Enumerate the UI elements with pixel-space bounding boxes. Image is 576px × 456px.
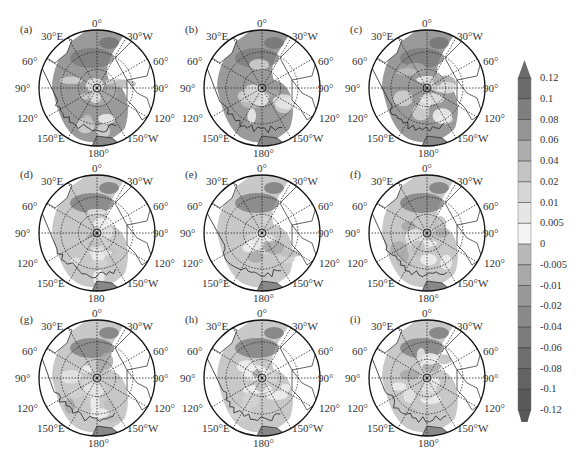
colorbar-tick-label: -0.01 <box>540 281 562 291</box>
colorbar-tick-label: 0.005 <box>540 218 564 228</box>
colorbar-tick-label: -0.1 <box>540 384 557 394</box>
longitude-label-lower-left: 150°E <box>37 423 65 434</box>
longitude-label-left-lower: 120° <box>17 113 38 124</box>
longitude-label-right-upper: 60° <box>153 56 168 67</box>
longitude-label-upper-left: 30°E <box>206 31 228 42</box>
longitude-label-top: 0° <box>92 18 102 29</box>
map-panel-f: (f)0°30°E30°W60°60°90°90°120°120°150°E15… <box>342 158 512 308</box>
longitude-label-lower-right: 150°W <box>292 133 323 144</box>
longitude-label-left-upper: 60° <box>352 346 367 357</box>
longitude-label-left-lower: 120° <box>182 258 203 269</box>
longitude-label-lower-right: 150°W <box>457 278 488 289</box>
longitude-label-left-mid: 90° <box>15 228 30 239</box>
longitude-label-upper-right: 30°W <box>457 321 483 332</box>
colorbar-tick-label: 0 <box>540 239 545 249</box>
longitude-label-top: 0° <box>92 163 102 174</box>
longitude-label-right-mid: 90° <box>483 228 498 239</box>
longitude-label-right-mid: 90° <box>153 228 168 239</box>
longitude-label-left-mid: 90° <box>345 373 360 384</box>
longitude-label-left-lower: 120° <box>182 403 203 414</box>
longitude-label-left-lower: 120° <box>17 403 38 414</box>
longitude-label-right-lower: 120° <box>319 258 340 269</box>
longitude-label-left-upper: 60° <box>187 56 202 67</box>
longitude-label-right-upper: 60° <box>153 201 168 212</box>
colorbar-tick-label: 0.08 <box>540 115 558 125</box>
longitude-label-right-mid: 90° <box>318 83 333 94</box>
map-panel-e: (e)0°30°E30°W60°60°90°90°120°120°150°E15… <box>177 158 347 308</box>
longitude-label-upper-right: 30°W <box>457 31 483 42</box>
longitude-label-right-upper: 60° <box>153 346 168 357</box>
colorbar-tick-label: 0.12 <box>540 73 558 83</box>
colorbar-tick-label: -0.04 <box>540 322 562 332</box>
longitude-label-left-lower: 120° <box>347 113 368 124</box>
colorbar-tick-label: -0.08 <box>540 364 562 374</box>
longitude-label-top: 0° <box>257 18 267 29</box>
longitude-label-lower-left: 150°E <box>202 278 230 289</box>
longitude-label-right-lower: 120° <box>154 113 175 124</box>
colorbar-tick-label: 0.06 <box>540 135 558 145</box>
colorbar-tick-label: 0.01 <box>540 198 558 208</box>
longitude-label-upper-left: 30°E <box>206 176 228 187</box>
longitude-label-right-upper: 60° <box>483 201 498 212</box>
longitude-label-left-mid: 90° <box>180 228 195 239</box>
map-panel-a: (a)0°30°E30°W60°60°90°90°120°120°150°E15… <box>12 13 182 163</box>
longitude-label-lower-left: 150°E <box>37 133 65 144</box>
longitude-label-right-mid: 90° <box>153 373 168 384</box>
longitude-label-lower-right: 150°W <box>457 133 488 144</box>
longitude-label-upper-right: 30°W <box>127 321 153 332</box>
colorbar-tick-label: 0.04 <box>540 156 558 166</box>
panel-label: (i) <box>350 314 360 325</box>
longitude-label-lower-right: 150°W <box>127 278 158 289</box>
colorbar-tick-label: -0.02 <box>540 301 562 311</box>
longitude-label-left-upper: 60° <box>22 201 37 212</box>
longitude-label-left-lower: 120° <box>17 258 38 269</box>
longitude-label-right-upper: 60° <box>483 346 498 357</box>
longitude-label-upper-left: 30°E <box>371 321 393 332</box>
map-panel-i: (i)0°30°E30°W60°60°90°90°120°120°150°E15… <box>342 303 512 453</box>
longitude-label-top: 0° <box>422 308 432 319</box>
longitude-label-right-upper: 60° <box>318 56 333 67</box>
panel-label: (h) <box>185 314 198 325</box>
longitude-label-top: 0° <box>92 308 102 319</box>
map-panel-b: (b)0°30°E30°W60°60°90°90°120°120°150°E15… <box>177 13 347 163</box>
longitude-label-upper-right: 30°W <box>292 176 318 187</box>
longitude-label-bottom: 180° <box>418 438 439 449</box>
longitude-label-left-upper: 60° <box>352 201 367 212</box>
longitude-label-bottom: 180° <box>253 438 274 449</box>
panel-label: (d) <box>20 169 33 180</box>
longitude-label-left-mid: 90° <box>15 373 30 384</box>
longitude-label-right-mid: 90° <box>483 373 498 384</box>
longitude-label-right-mid: 90° <box>483 83 498 94</box>
longitude-label-top: 0° <box>422 163 432 174</box>
colorbar-tick-label: 0.02 <box>540 177 558 187</box>
map-panel-c: (c)0°30°E30°W60°60°90°90°120°120°150°E15… <box>342 13 512 163</box>
map-panel-d: (d)0°30°E30°W60°60°90°90°120°120°150°E15… <box>12 158 182 308</box>
longitude-label-left-upper: 60° <box>22 56 37 67</box>
longitude-label-left-upper: 60° <box>187 346 202 357</box>
longitude-label-left-mid: 90° <box>15 83 30 94</box>
longitude-label-top: 0° <box>422 18 432 29</box>
longitude-label-right-lower: 120° <box>154 258 175 269</box>
longitude-label-left-mid: 90° <box>345 228 360 239</box>
colorbar-tick-label: -0.06 <box>540 343 562 353</box>
longitude-label-upper-left: 30°E <box>371 176 393 187</box>
longitude-label-right-upper: 60° <box>318 346 333 357</box>
colorbar-tick-label: -0.005 <box>540 260 567 270</box>
longitude-label-left-upper: 60° <box>352 56 367 67</box>
longitude-label-right-mid: 90° <box>318 373 333 384</box>
longitude-label-upper-left: 30°E <box>371 31 393 42</box>
panel-label: (a) <box>20 24 32 35</box>
longitude-label-top: 0° <box>257 163 267 174</box>
longitude-label-upper-right: 30°W <box>292 31 318 42</box>
longitude-label-left-lower: 120° <box>347 403 368 414</box>
longitude-label-upper-left: 30°E <box>41 321 63 332</box>
longitude-label-upper-right: 30°W <box>127 31 153 42</box>
longitude-label-right-lower: 120° <box>484 258 505 269</box>
colorbar-scale <box>505 52 539 422</box>
colorbar-tick-label: -0.12 <box>540 405 562 415</box>
panel-label: (b) <box>185 24 198 35</box>
longitude-label-lower-right: 150°W <box>127 423 158 434</box>
longitude-label-lower-left: 150°E <box>367 278 395 289</box>
longitude-label-lower-right: 150°W <box>457 423 488 434</box>
longitude-label-left-mid: 90° <box>180 373 195 384</box>
